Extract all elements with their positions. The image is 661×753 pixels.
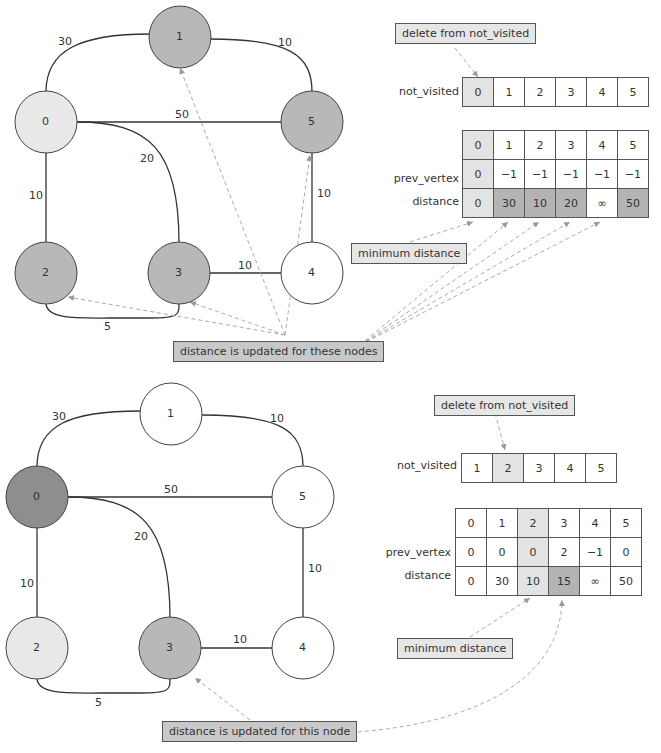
step2-nv-cell: 5 — [586, 454, 617, 483]
step2-weight-0-3: 20 — [134, 530, 148, 543]
step2-node-5-label: 5 — [299, 490, 306, 503]
step1-weight-0-5: 50 — [175, 108, 189, 121]
cell: 0 — [456, 567, 487, 596]
step2-nv-cell: 4 — [555, 454, 586, 483]
step2-weight-0-1: 30 — [52, 410, 66, 423]
cell: −1 — [587, 160, 618, 189]
step2-min-note: minimum distance — [397, 638, 513, 659]
step1-min-note: minimum distance — [351, 243, 467, 264]
cell: 50 — [618, 189, 649, 218]
step1-nv-cell: 3 — [556, 78, 587, 107]
cell: 2 — [549, 538, 580, 567]
cell: 0 — [456, 538, 487, 567]
step1-nv-cell: 2 — [525, 78, 556, 107]
step1-node-5-label: 5 — [308, 115, 315, 128]
cell: −1 — [525, 160, 556, 189]
step1-nv-cell: 1 — [494, 78, 525, 107]
step1-node-0-label: 0 — [42, 115, 49, 128]
step1-header-row: 0 1 2 3 4 5 — [463, 131, 649, 160]
cell: 10 — [518, 567, 549, 596]
step2-weight-3-4: 10 — [233, 633, 247, 646]
cell: 30 — [494, 189, 525, 218]
step2-header-row: 0 1 2 3 4 5 — [456, 509, 642, 538]
step1-node-1-label: 1 — [176, 30, 183, 43]
step2-node-4-label: 4 — [299, 641, 306, 654]
step2-prev-vertex-label: prev_vertex — [371, 546, 451, 559]
step2-weight-2-3: 5 — [95, 696, 102, 709]
step1-weight-5-4: 10 — [317, 187, 331, 200]
cell: 0 — [611, 538, 642, 567]
step1-dijkstra-table: 0 1 2 3 4 5 0 −1 −1 −1 −1 −1 0 30 10 20 … — [462, 130, 649, 218]
cell: 4 — [580, 509, 611, 538]
step1-update-note: distance is updated for these nodes — [173, 341, 384, 362]
step1-nv-cell: 4 — [587, 78, 618, 107]
cell: 2 — [518, 509, 549, 538]
step2-weight-5-4: 10 — [308, 562, 322, 575]
step1-prev-vertex-row: 0 −1 −1 −1 −1 −1 — [463, 160, 649, 189]
step1-nv-cell: 0 — [463, 78, 494, 107]
cell: 1 — [494, 131, 525, 160]
step1-weight-0-3: 20 — [140, 152, 154, 165]
cell: 0 — [456, 509, 487, 538]
step2-prev-vertex-row: 0 0 0 2 −1 0 — [456, 538, 642, 567]
cell: 2 — [525, 131, 556, 160]
cell: ∞ — [587, 189, 618, 218]
step2-not-visited-label: not_visited — [377, 459, 457, 472]
step2-nv-cell: 3 — [524, 454, 555, 483]
step2-nv-cell: 2 — [493, 454, 524, 483]
step2-weight-0-2: 10 — [20, 577, 34, 590]
cell: 0 — [463, 189, 494, 218]
step2-weight-0-5: 50 — [164, 483, 178, 496]
cell: −1 — [580, 538, 611, 567]
step1-distance-row: 0 30 10 20 ∞ 50 — [463, 189, 649, 218]
cell: 20 — [556, 189, 587, 218]
step2-update-note: distance is updated for this node — [162, 721, 357, 742]
cell: 0 — [487, 538, 518, 567]
step1-not-visited-array: 0 1 2 3 4 5 — [462, 77, 649, 107]
cell: 0 — [463, 160, 494, 189]
step1-nodes — [15, 6, 343, 304]
cell: −1 — [556, 160, 587, 189]
diagram-canvas — [0, 0, 661, 753]
cell: 15 — [549, 567, 580, 596]
step1-weight-0-2: 10 — [29, 189, 43, 202]
step1-node-2-label: 2 — [42, 266, 49, 279]
cell: 3 — [556, 131, 587, 160]
step1-weight-2-3: 5 — [104, 320, 111, 333]
cell: 5 — [611, 509, 642, 538]
cell: 3 — [549, 509, 580, 538]
step2-delete-note: delete from not_visited — [434, 395, 575, 416]
step1-distance-label: distance — [379, 195, 459, 208]
step2-dijkstra-table: 0 1 2 3 4 5 0 0 0 2 −1 0 0 30 10 15 ∞ 50 — [455, 508, 642, 596]
cell: −1 — [618, 160, 649, 189]
step2-node-0-label: 0 — [33, 490, 40, 503]
cell: ∞ — [580, 567, 611, 596]
step1-node-4-label: 4 — [308, 266, 315, 279]
cell: 4 — [587, 131, 618, 160]
step2-node-2-label: 2 — [33, 641, 40, 654]
step1-prev-vertex-label: prev_vertex — [379, 172, 459, 185]
cell: 0 — [463, 131, 494, 160]
cell: 30 — [487, 567, 518, 596]
step1-not-visited-label: not_visited — [379, 85, 459, 98]
step2-weight-1-5: 10 — [270, 412, 284, 425]
cell: 50 — [611, 567, 642, 596]
step2-not-visited-array: 1 2 3 4 5 — [461, 453, 617, 483]
cell: 10 — [525, 189, 556, 218]
step2-node-1-label: 1 — [167, 407, 174, 420]
step1-nv-cell: 5 — [618, 78, 649, 107]
step1-weight-1-5: 10 — [278, 36, 292, 49]
cell: −1 — [494, 160, 525, 189]
step2-distance-row: 0 30 10 15 ∞ 50 — [456, 567, 642, 596]
step2-nv-cell: 1 — [462, 454, 493, 483]
step1-weight-0-1: 30 — [58, 35, 72, 48]
cell: 1 — [487, 509, 518, 538]
cell: 5 — [618, 131, 649, 160]
step1-weight-3-4: 10 — [238, 259, 252, 272]
step1-delete-note: delete from not_visited — [395, 23, 536, 44]
step1-node-3-label: 3 — [175, 266, 182, 279]
step2-node-3-label: 3 — [166, 641, 173, 654]
cell: 0 — [518, 538, 549, 567]
step2-distance-label: distance — [371, 569, 451, 582]
